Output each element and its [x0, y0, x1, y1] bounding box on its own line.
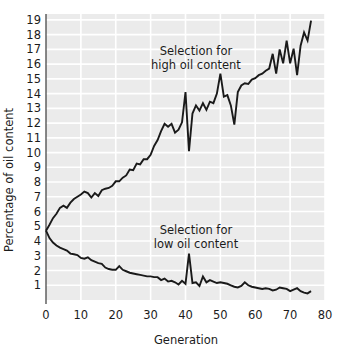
annotation-line-1: Selection for — [160, 223, 233, 237]
y-tick-label: 15 — [26, 72, 41, 86]
x-tick-label: 0 — [42, 308, 49, 322]
y-tick-label: 12 — [26, 116, 41, 130]
x-tick-label: 60 — [248, 308, 263, 322]
y-tick-label: 16 — [26, 57, 41, 71]
y-tick-label: 5 — [34, 219, 41, 233]
y-tick-label: 7 — [34, 190, 41, 204]
x-axis-tick-labels: 01020304050607080 — [42, 308, 332, 322]
annotation-line-2: high oil content — [151, 58, 241, 72]
y-tick-label: 10 — [26, 146, 41, 160]
y-tick-label: 14 — [26, 87, 41, 101]
annotation-line-2: low oil content — [154, 237, 239, 251]
y-tick-label: 19 — [26, 13, 41, 27]
low-selection-annotation: Selection forlow oil content — [154, 223, 239, 251]
y-tick-label: 8 — [34, 175, 41, 189]
chart-canvas: 12345678910111213141516171819 0102030405… — [0, 0, 337, 352]
y-tick-label: 18 — [26, 28, 41, 42]
y-axis-title: Percentage of oil content — [2, 107, 16, 252]
y-tick-label: 11 — [26, 131, 41, 145]
y-tick-label: 6 — [34, 205, 41, 219]
x-tick-label: 80 — [318, 308, 333, 322]
x-tick-label: 10 — [74, 308, 89, 322]
x-tick-label: 50 — [213, 308, 228, 322]
x-tick-label: 20 — [108, 308, 123, 322]
x-tick-label: 70 — [283, 308, 298, 322]
x-tick-label: 40 — [178, 308, 193, 322]
y-tick-label: 3 — [34, 249, 41, 263]
x-tick-label: 30 — [143, 308, 158, 322]
x-axis-title: Generation — [154, 333, 218, 347]
y-tick-label: 4 — [34, 234, 41, 248]
y-tick-label: 9 — [34, 160, 41, 174]
y-tick-label: 17 — [26, 42, 41, 56]
y-tick-label: 1 — [34, 278, 41, 292]
oil-content-selection-chart: 12345678910111213141516171819 0102030405… — [0, 0, 337, 352]
y-tick-label: 2 — [34, 264, 41, 278]
high-selection-annotation: Selection forhigh oil content — [151, 44, 241, 72]
annotation-line-1: Selection for — [160, 44, 233, 58]
y-tick-label: 13 — [26, 101, 41, 115]
